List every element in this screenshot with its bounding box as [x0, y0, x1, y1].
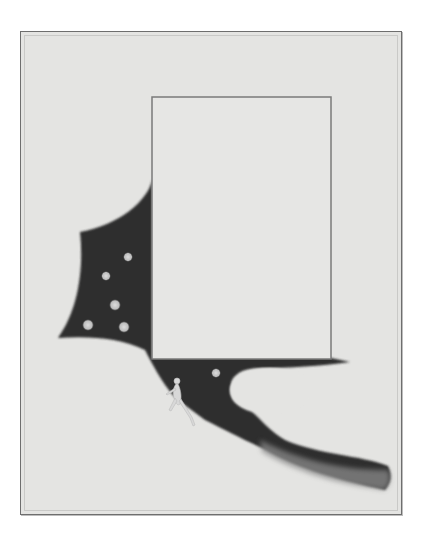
star-icon: [82, 319, 94, 331]
pale-cloud-lobe: [230, 368, 310, 412]
star-icon: [211, 368, 221, 378]
star-icon: [123, 252, 133, 262]
star-icon: [109, 299, 121, 311]
star-icon: [118, 321, 130, 333]
painting: [0, 0, 421, 539]
star-icon: [101, 271, 111, 281]
empty-ruled-panel: [152, 97, 331, 359]
